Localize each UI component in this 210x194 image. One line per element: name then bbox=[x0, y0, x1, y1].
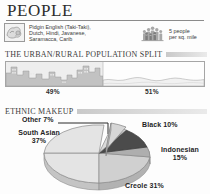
urban-rural-percent-labels: 49% 51% bbox=[5, 88, 205, 98]
pie-label-south-asian: South Asian 37% bbox=[8, 129, 70, 145]
page-title-block: PEOPLE bbox=[6, 2, 204, 21]
pie-label-creole: Creole 31% bbox=[125, 182, 164, 190]
density-fact: 5 people per sq. mile bbox=[141, 24, 197, 43]
rural-percent-label: 51% bbox=[145, 88, 159, 95]
pie-label-black: Black 10% bbox=[142, 121, 178, 129]
urban-rural-heading: THE URBAN/RURAL POPULATION SPLIT bbox=[5, 50, 166, 59]
urban-rural-header-bar bbox=[166, 52, 207, 57]
urban-rural-illustration bbox=[5, 61, 205, 87]
crowd-people-icon bbox=[141, 24, 164, 43]
pie-label-indonesian: Indonesian 15% bbox=[152, 146, 208, 162]
density-text: 5 people per sq. mile bbox=[169, 24, 197, 40]
speech-map-icon bbox=[4, 23, 25, 42]
title-divider bbox=[6, 20, 204, 21]
languages-fact: Pidgin English (Taki-Taki), Dutch, Hindi… bbox=[4, 23, 91, 42]
page-title: PEOPLE bbox=[6, 2, 204, 20]
people-infographic-page: PEOPLE Pidgin English (Taki-Taki), Dutch… bbox=[0, 0, 210, 194]
facts-row: Pidgin English (Taki-Taki), Dutch, Hindi… bbox=[4, 23, 208, 47]
languages-text: Pidgin English (Taki-Taki), Dutch, Hindi… bbox=[29, 23, 91, 42]
urban-percent-label: 49% bbox=[46, 88, 60, 95]
ethnic-makeup-pie-chart: Other 7% South Asian 37% Black 10% Indon… bbox=[0, 114, 210, 194]
urban-rural-section-header: THE URBAN/RURAL POPULATION SPLIT bbox=[5, 50, 207, 59]
pie-label-other: Other 7% bbox=[22, 116, 54, 124]
